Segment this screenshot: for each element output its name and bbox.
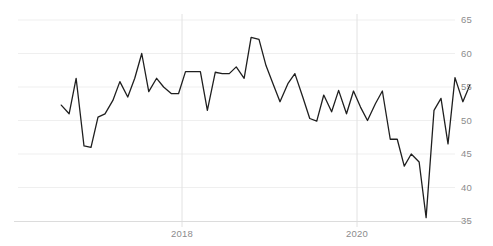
y-tick-label-65: 65 <box>461 15 472 25</box>
series-line-pmi <box>61 37 470 217</box>
horizontal-gridlines <box>18 20 455 188</box>
x-tick-label-2020: 2020 <box>337 229 377 239</box>
y-tick-label-60: 60 <box>461 49 472 59</box>
x-tick-label-2018: 2018 <box>162 229 202 239</box>
chart-plot-area <box>0 0 493 246</box>
line-chart: 65 60 55 50 45 40 35 2018 2020 <box>0 0 493 246</box>
y-tick-label-55: 55 <box>461 82 472 92</box>
y-tick-label-45: 45 <box>461 149 472 159</box>
y-tick-label-50: 50 <box>461 116 472 126</box>
y-tick-label-35: 35 <box>461 216 472 226</box>
y-tick-label-40: 40 <box>461 183 472 193</box>
